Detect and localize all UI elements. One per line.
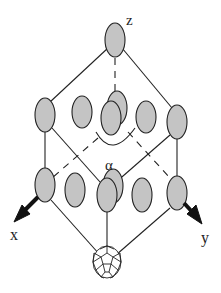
molecule-bottom-3-front [97, 178, 117, 212]
molecule-mid-1 [35, 98, 55, 132]
molecule-mid-5 [167, 105, 187, 139]
molecule-mid-3-front [101, 101, 121, 135]
x-axis-label: x [10, 226, 18, 243]
lattice-diagram: z x y α [0, 0, 221, 293]
z-axis-label: z [126, 12, 133, 28]
molecule-top [105, 23, 125, 57]
fullerene-icon [93, 246, 121, 278]
molecule-mid-2 [72, 96, 92, 128]
molecule-mid-4 [136, 101, 156, 133]
y-axis-label: y [201, 229, 209, 247]
molecule-bottom-4 [132, 178, 152, 212]
molecule-bottom-2 [65, 173, 85, 207]
molecule-bottom-1 [35, 168, 55, 202]
angle-alpha-label: α [105, 157, 113, 173]
